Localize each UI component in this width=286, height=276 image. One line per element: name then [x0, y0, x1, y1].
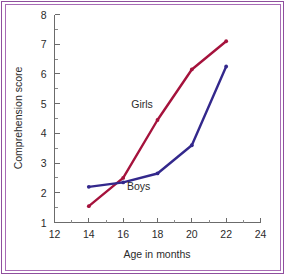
x-tick-label: 14: [83, 228, 95, 240]
series-label-girls: Girls: [131, 98, 153, 110]
y-tick-label: 3: [41, 157, 47, 169]
series-label-boys: Boys: [127, 180, 150, 192]
x-tick-label: 20: [186, 228, 198, 240]
x-tick-labels: 12141618202224: [49, 228, 267, 240]
x-tick-label: 22: [220, 228, 232, 240]
data-point-boys: [121, 180, 125, 184]
y-tick-label: 1: [41, 217, 47, 229]
data-point-girls: [190, 68, 194, 72]
y-tick-label: 6: [41, 68, 47, 80]
y-tick-label: 8: [41, 9, 47, 21]
y-tick-labels: 12345678: [41, 9, 47, 229]
data-point-boys: [87, 185, 91, 189]
x-tick-label: 16: [117, 228, 129, 240]
y-tick-label: 5: [41, 98, 47, 110]
x-tick-label: 24: [255, 228, 267, 240]
series-line-girls: [89, 41, 226, 206]
series-line-boys: [89, 67, 226, 187]
data-point-girls: [156, 118, 160, 122]
data-point-boys: [224, 65, 228, 69]
chart-figure: 12141618202224 12345678 GirlsBoys Age in…: [0, 0, 286, 276]
x-tick-label: 12: [49, 228, 61, 240]
y-axis-title: Comprehension score: [12, 66, 24, 169]
data-point-girls: [224, 39, 228, 43]
data-point-boys: [190, 143, 194, 147]
data-point-boys: [156, 172, 160, 176]
data-point-girls: [121, 176, 125, 180]
line-chart: 12141618202224 12345678 GirlsBoys Age in…: [0, 0, 286, 276]
data-point-girls: [87, 204, 91, 208]
y-tick-label: 2: [41, 187, 47, 199]
y-tick-label: 4: [41, 127, 47, 139]
y-tick-label: 7: [41, 38, 47, 50]
x-tick-label: 18: [152, 228, 164, 240]
x-axis-title: Age in months: [123, 248, 190, 260]
data-series: [87, 39, 228, 208]
